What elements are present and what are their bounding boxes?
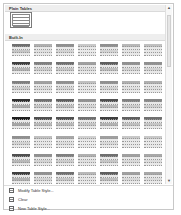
menu-item-label: New Table Style... [18, 206, 50, 211]
table-style-builtin-47[interactable] [100, 154, 118, 166]
table-style-builtin-27[interactable] [122, 99, 140, 111]
table-style-builtin-48[interactable] [122, 154, 140, 166]
table-style-builtin-43[interactable] [12, 154, 30, 166]
table-style-builtin-34[interactable] [122, 117, 140, 129]
table-style-builtin-23[interactable] [34, 99, 52, 111]
gallery-scrollbar[interactable]: ▲ ▼ [165, 5, 172, 184]
modify-table-style-menu-item[interactable]: Modify Table Style... [4, 186, 173, 195]
table-style-builtin-21[interactable] [144, 81, 162, 93]
table-style-builtin-37[interactable] [34, 136, 52, 148]
table-style-builtin-40[interactable] [100, 136, 118, 148]
table-style-builtin-39[interactable] [78, 136, 96, 148]
new-table-style-menu-item[interactable]: New Table Style... [4, 204, 173, 213]
table-style-builtin-14[interactable] [144, 62, 162, 74]
table-style-builtin-18[interactable] [78, 81, 96, 93]
menu-item-label: Clear [18, 197, 28, 202]
table-style-builtin-15[interactable] [12, 81, 30, 93]
table-style-builtin-25[interactable] [78, 99, 96, 111]
table-style-builtin-29[interactable] [12, 117, 30, 129]
table-style-builtin-52[interactable] [56, 172, 74, 184]
section-header-plain-tables: Plain Tables [5, 5, 165, 12]
table-style-builtin-32[interactable] [78, 117, 96, 129]
table-style-builtin-2[interactable] [34, 44, 52, 56]
table-style-builtin-53[interactable] [78, 172, 96, 184]
table-style-builtin-41[interactable] [122, 136, 140, 148]
table-style-builtin-1[interactable] [12, 44, 30, 56]
modify-table-style-icon [9, 188, 14, 193]
table-style-builtin-50[interactable] [12, 172, 30, 184]
table-style-builtin-12[interactable] [100, 62, 118, 74]
table-style-builtin-55[interactable] [122, 172, 140, 184]
new-table-style-icon [9, 206, 14, 211]
table-style-builtin-36[interactable] [12, 136, 30, 148]
scroll-up-button[interactable]: ▲ [166, 5, 172, 11]
table-style-builtin-45[interactable] [56, 154, 74, 166]
table-style-builtin-10[interactable] [56, 62, 74, 74]
scroll-down-button[interactable]: ▼ [166, 178, 172, 184]
table-style-builtin-13[interactable] [122, 62, 140, 74]
table-style-builtin-6[interactable] [122, 44, 140, 56]
table-style-plain-grid[interactable] [12, 14, 30, 26]
table-style-builtin-5[interactable] [100, 44, 118, 56]
table-style-menu: Modify Table Style... Clear New Table St… [4, 185, 173, 213]
table-styles-gallery: Plain Tables Built-In [4, 4, 167, 185]
table-style-builtin-3[interactable] [56, 44, 74, 56]
table-style-builtin-7[interactable] [144, 44, 162, 56]
table-style-builtin-56[interactable] [144, 172, 162, 184]
table-style-builtin-19[interactable] [100, 81, 118, 93]
table-style-builtin-24[interactable] [56, 99, 74, 111]
table-style-builtin-35[interactable] [144, 117, 162, 129]
table-style-builtin-49[interactable] [144, 154, 162, 166]
table-style-builtin-9[interactable] [34, 62, 52, 74]
table-style-builtin-44[interactable] [34, 154, 52, 166]
table-style-builtin-51[interactable] [34, 172, 52, 184]
table-style-builtin-31[interactable] [56, 117, 74, 129]
section-header-built-in: Built-In [5, 34, 165, 41]
clear-menu-item[interactable]: Clear [4, 195, 173, 204]
table-style-builtin-42[interactable] [144, 136, 162, 148]
scroll-thumb[interactable] [167, 15, 171, 67]
table-style-builtin-54[interactable] [100, 172, 118, 184]
table-style-builtin-33[interactable] [100, 117, 118, 129]
table-style-builtin-8[interactable] [12, 62, 30, 74]
clear-icon [9, 197, 14, 202]
table-style-builtin-38[interactable] [56, 136, 74, 148]
table-style-builtin-4[interactable] [78, 44, 96, 56]
table-style-builtin-17[interactable] [56, 81, 74, 93]
table-style-builtin-46[interactable] [78, 154, 96, 166]
table-style-builtin-28[interactable] [144, 99, 162, 111]
menu-item-label: Modify Table Style... [18, 188, 54, 193]
table-style-builtin-16[interactable] [34, 81, 52, 93]
table-styles-gallery-panel: Plain Tables Built-In ▲ ▼ Modify Table S… [3, 3, 174, 210]
table-style-builtin-22[interactable] [12, 99, 30, 111]
table-style-builtin-20[interactable] [122, 81, 140, 93]
table-style-builtin-11[interactable] [78, 62, 96, 74]
table-style-builtin-30[interactable] [34, 117, 52, 129]
table-style-builtin-26[interactable] [100, 99, 118, 111]
